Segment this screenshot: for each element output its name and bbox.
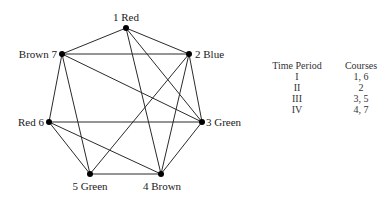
course-conflict-graph: 1 Red2 Blue3 Green4 Brown5 GreenRed 6Bro… — [0, 0, 260, 197]
time-period-cell: IV — [264, 104, 330, 115]
schedule-row: II 2 — [264, 82, 392, 93]
schedule-row: III 3, 5 — [264, 93, 392, 104]
schedule-header-row: Time Period Courses — [264, 60, 392, 71]
graph-nodes — [46, 25, 205, 177]
header-courses: Courses — [330, 60, 392, 71]
node-1-label: 1 Red — [113, 11, 139, 23]
schedule-row: IV 4, 7 — [264, 104, 392, 115]
node-5-dot — [87, 171, 93, 177]
courses-cell: 3, 5 — [330, 93, 392, 104]
schedule-row: I 1, 6 — [264, 71, 392, 82]
courses-cell: 2 — [330, 82, 392, 93]
edge-1-2 — [126, 28, 189, 54]
graph-labels: 1 Red2 Blue3 Green4 Brown5 GreenRed 6Bro… — [18, 11, 242, 192]
time-period-cell: III — [264, 93, 330, 104]
graph-edges — [49, 28, 202, 174]
edge-7-6 — [49, 54, 62, 122]
node-1-dot — [123, 25, 129, 31]
edge-2-5 — [90, 54, 189, 174]
node-5-label: 5 Green — [72, 180, 108, 192]
header-time-period: Time Period — [264, 60, 330, 71]
node-4-label: 4 Brown — [143, 180, 182, 192]
courses-cell: 4, 7 — [330, 104, 392, 115]
node-3-label: 3 Green — [206, 116, 242, 128]
node-3-dot — [199, 119, 205, 125]
node-2-label: 2 Blue — [195, 48, 224, 60]
edge-1-7 — [62, 28, 126, 54]
node-4-dot — [158, 171, 164, 177]
node-7-label: Brown 7 — [19, 48, 58, 60]
schedule-table: Time Period Courses I 1, 6 II 2 III 3, 5… — [264, 60, 392, 115]
time-period-cell: II — [264, 82, 330, 93]
node-6-label: Red 6 — [18, 116, 44, 128]
node-7-dot — [59, 51, 65, 57]
courses-cell: 1, 6 — [330, 71, 392, 82]
node-6-dot — [46, 119, 52, 125]
edge-6-4 — [49, 122, 161, 174]
edge-2-3 — [189, 54, 202, 122]
node-2-dot — [186, 51, 192, 57]
time-period-cell: I — [264, 71, 330, 82]
